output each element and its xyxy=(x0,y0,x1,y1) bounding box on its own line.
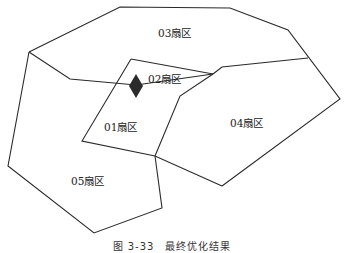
sector-label-04: 04扇区 xyxy=(230,118,263,129)
sector-label-02: 02扇区 xyxy=(148,74,181,85)
sector-label-03: 03扇区 xyxy=(158,28,191,39)
diamond-marker-icon xyxy=(129,74,143,98)
sector-label-05: 05扇区 xyxy=(71,176,104,187)
sector-03-04-boundary xyxy=(213,58,308,74)
sector-label-01: 01扇区 xyxy=(104,122,137,133)
figure-caption: 图 3-33 最终优化结果 xyxy=(0,238,344,253)
sector-02-04-boundary xyxy=(155,74,213,156)
sector-02-upper-boundary xyxy=(131,59,213,74)
